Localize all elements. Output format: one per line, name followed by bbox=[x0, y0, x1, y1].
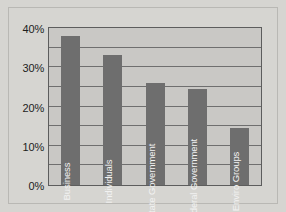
y-axis-tick-label: 20% bbox=[23, 102, 44, 114]
bar-chart-figure: 0%10%20%30%40% BusinessIndividualsState … bbox=[0, 0, 286, 212]
y-axis-labels: 0%10%20%30%40% bbox=[0, 27, 44, 186]
bar: State Government bbox=[146, 83, 165, 185]
y-axis-tick-label: 0% bbox=[29, 180, 45, 192]
y-axis-tick-label: 30% bbox=[23, 62, 44, 74]
bar: Business bbox=[61, 36, 80, 185]
bar-series: BusinessIndividualsState GovernmentFeder… bbox=[49, 28, 261, 185]
bar-category-label: Business bbox=[61, 162, 71, 200]
bar: Federal Government bbox=[188, 89, 207, 185]
bar: Enviro Groups bbox=[230, 128, 249, 185]
bar-category-label: Federal Government bbox=[188, 138, 198, 212]
bar-category-label: Individuals bbox=[103, 159, 113, 203]
y-axis-tick-label: 40% bbox=[23, 23, 44, 35]
y-axis-tick-label: 10% bbox=[23, 141, 44, 153]
bar-category-label: Enviro Groups bbox=[230, 151, 240, 210]
bar-category-label: State Government bbox=[146, 143, 156, 212]
bar: Individuals bbox=[103, 55, 122, 185]
